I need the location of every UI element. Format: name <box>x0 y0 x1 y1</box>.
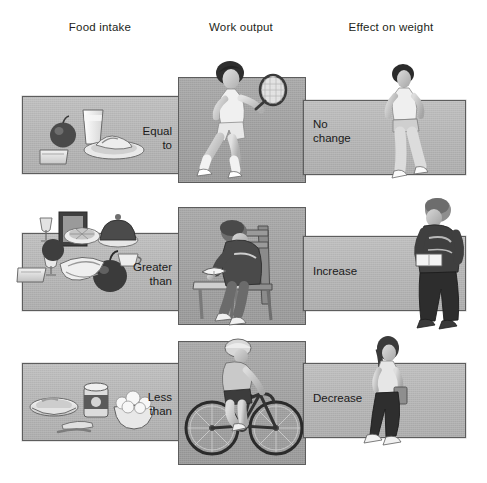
effect-label-row-1: No change <box>313 118 383 145</box>
effect-label-row-3: Decrease <box>313 392 395 406</box>
column-header-work-output: Work output <box>155 21 327 33</box>
diagram-canvas: Food intake Work output Effect on weight <box>0 0 487 483</box>
food-intake-bar-row-1 <box>22 96 200 174</box>
texture-overlay <box>179 208 305 324</box>
texture-overlay <box>179 78 305 182</box>
comparison-label-row-1: Equal to <box>118 125 172 152</box>
texture-overlay <box>179 342 305 464</box>
food-intake-bar-row-3 <box>22 363 200 441</box>
work-output-panel-row-1 <box>178 77 306 183</box>
comparison-label-row-2: Greater than <box>110 261 172 288</box>
effect-label-row-2: Increase <box>313 265 393 279</box>
comparison-label-row-3: Less than <box>118 391 172 418</box>
texture-overlay <box>23 97 199 173</box>
work-output-panel-row-2 <box>178 207 306 325</box>
column-header-effect-on-weight: Effect on weight <box>305 21 477 33</box>
texture-overlay <box>23 364 199 440</box>
work-output-panel-row-3 <box>178 341 306 465</box>
